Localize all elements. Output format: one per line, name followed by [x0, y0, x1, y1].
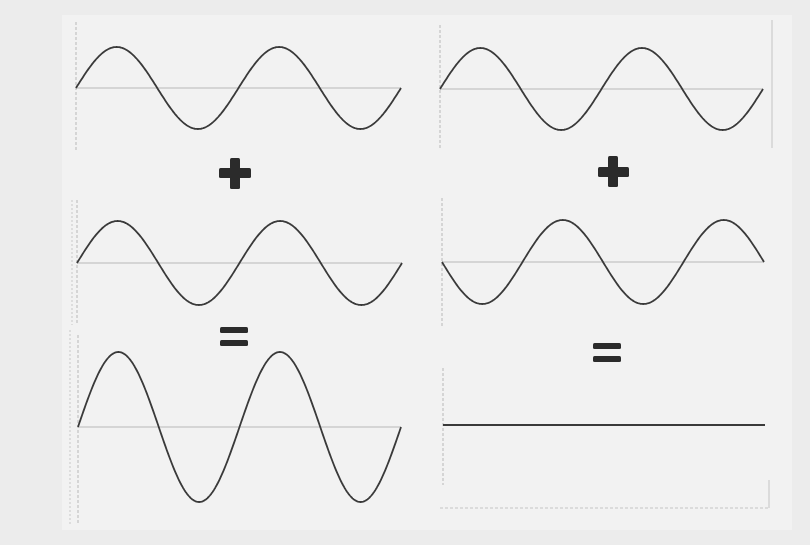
diagram-canvas: Wave A Wave B Sum A+B Wave A Wave B (inv…	[0, 0, 810, 545]
interference-diagram: Wave superposition: constructive and des…	[0, 0, 810, 545]
